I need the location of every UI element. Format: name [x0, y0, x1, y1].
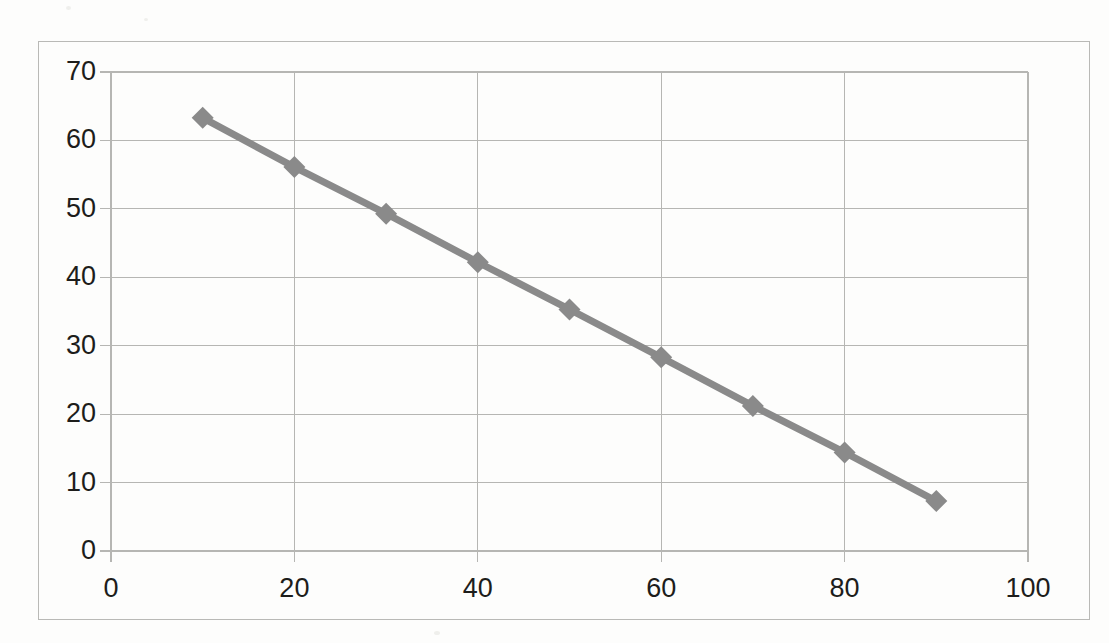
chart-plot-area — [0, 0, 1109, 643]
x-axis-tick-label: 20 — [244, 575, 344, 602]
scanned-chart-page: 706050403020100 020406080100 — [0, 0, 1109, 643]
y-axis-tick-label: 20 — [40, 400, 96, 427]
y-axis-tick-label: 50 — [40, 195, 96, 222]
y-axis-tick-label: 10 — [40, 469, 96, 496]
y-axis-tick-label: 30 — [40, 332, 96, 359]
x-axis-tick-label: 100 — [978, 575, 1078, 602]
x-axis-tick-marks — [111, 551, 1028, 562]
x-axis-tick-label: 40 — [428, 575, 528, 602]
data-series-markers — [192, 107, 948, 512]
y-axis-tick-marks — [100, 72, 111, 551]
y-axis-tick-label: 0 — [40, 537, 96, 564]
x-axis-tick-label: 80 — [795, 575, 895, 602]
x-axis-tick-label: 60 — [611, 575, 711, 602]
y-axis-tick-label: 40 — [40, 263, 96, 290]
y-axis-tick-label: 60 — [40, 126, 96, 153]
y-axis-tick-label: 70 — [40, 58, 96, 85]
x-axis-tick-label: 0 — [61, 575, 161, 602]
